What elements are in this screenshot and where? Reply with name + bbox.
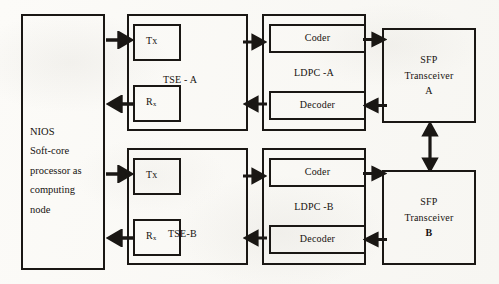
tx-a-label: Tx xyxy=(146,35,158,48)
coder-b-label: Coder xyxy=(269,166,366,179)
arrow-tse-a-to-ldpc-a-icon xyxy=(243,33,267,51)
rx-a-label-subscript: x xyxy=(153,100,156,107)
arrow-sfp-a-sfp-b-fiber-link-icon xyxy=(420,122,440,172)
arrow-coder-b-to-sfp-b-icon xyxy=(363,165,387,182)
nios-label-line-5: node xyxy=(30,200,108,219)
coder-a-label: Coder xyxy=(269,32,366,45)
arrow-rx-b-to-nios-icon xyxy=(106,229,134,247)
ldpc-a-label: LDPC -A xyxy=(262,67,366,80)
tx-b-label: Tx xyxy=(146,169,158,182)
rx-b-label-subscript: x xyxy=(153,234,156,241)
decoder-b-label: Decoder xyxy=(269,233,366,246)
arrow-coder-a-to-sfp-a-icon xyxy=(363,31,387,48)
arrow-sfp-a-to-decoder-a-icon xyxy=(363,97,387,114)
nios-processor-label: NIOS Soft-core processor as computing no… xyxy=(30,122,108,219)
rx-b-label: Rx xyxy=(146,230,156,243)
decoder-a-label: Decoder xyxy=(269,99,366,112)
nios-label-line-3: processor as xyxy=(30,161,108,180)
tse-b-label: TSE-B xyxy=(168,228,197,241)
sfp-b-line-2: Transceiver xyxy=(382,210,476,226)
arrow-tse-b-to-ldpc-b-icon xyxy=(243,167,267,185)
nios-label-line-4: computing xyxy=(30,180,108,199)
ldpc-b-label: LDPC -B xyxy=(262,201,366,214)
arrow-nios-to-tx-a-icon xyxy=(106,31,134,49)
sfp-b-line-3: B xyxy=(382,225,476,241)
arrow-rx-a-to-nios-icon xyxy=(106,95,134,113)
rx-a-label-main: R xyxy=(146,96,153,107)
arrow-ldpc-b-to-tse-b-icon xyxy=(243,229,267,247)
sfp-transceiver-a-label: SFP Transceiver A xyxy=(382,52,476,99)
sfp-a-line-2: Transceiver xyxy=(382,68,476,84)
tse-a-label: TSE - A xyxy=(163,74,197,87)
nios-label-line-2: Soft-core xyxy=(30,141,108,160)
arrow-ldpc-a-to-tse-a-icon xyxy=(243,95,267,113)
nios-label-line-1: NIOS xyxy=(30,122,108,141)
sfp-a-line-1: SFP xyxy=(382,52,476,68)
arrow-nios-to-tx-b-icon xyxy=(106,165,134,183)
arrow-sfp-b-to-decoder-b-icon xyxy=(363,231,387,248)
diagram-canvas: NIOS Soft-core processor as computing no… xyxy=(0,0,499,284)
rx-a-block xyxy=(133,85,181,122)
rx-a-label: Rx xyxy=(146,96,156,109)
sfp-transceiver-b-label: SFP Transceiver B xyxy=(382,194,476,241)
sfp-b-line-1: SFP xyxy=(382,194,476,210)
sfp-a-line-3: A xyxy=(382,83,476,99)
rx-b-label-main: R xyxy=(146,230,153,241)
